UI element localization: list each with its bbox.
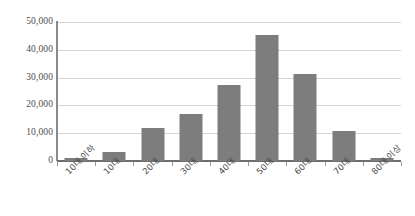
y-tick-label: 40,000	[5, 45, 53, 55]
y-tick-label: 0	[5, 156, 53, 166]
bar[interactable]	[217, 85, 240, 161]
y-tick-label: 10,000	[5, 128, 53, 138]
x-tick-mark	[363, 162, 364, 166]
y-tick-label: 20,000	[5, 100, 53, 110]
y-tick-label: 50,000	[5, 17, 53, 27]
bar-slot	[95, 22, 133, 161]
bar-slot	[325, 22, 363, 161]
bar-slot	[248, 22, 286, 161]
bar-chart: 010,00020,00030,00040,00050,000 10대 이하10…	[0, 0, 415, 216]
y-axis-tick-labels: 010,00020,00030,00040,00050,000	[0, 0, 53, 216]
bar[interactable]	[256, 35, 279, 161]
x-tick-mark	[172, 162, 173, 166]
bar[interactable]	[179, 114, 202, 161]
x-tick-mark	[286, 162, 287, 166]
x-tick-mark	[401, 162, 402, 166]
bar-slot	[57, 22, 95, 161]
bar-slot	[133, 22, 171, 161]
y-tick-label: 30,000	[5, 73, 53, 83]
x-tick-mark	[325, 162, 326, 166]
bar-slot	[172, 22, 210, 161]
bar[interactable]	[294, 74, 317, 161]
x-tick-mark	[57, 162, 58, 166]
x-tick-mark	[248, 162, 249, 166]
bar-slot	[210, 22, 248, 161]
x-tick-mark	[95, 162, 96, 166]
bar-series	[57, 22, 401, 161]
x-tick-mark	[210, 162, 211, 166]
bar-slot	[286, 22, 324, 161]
x-tick-mark	[133, 162, 134, 166]
bar-slot	[363, 22, 401, 161]
